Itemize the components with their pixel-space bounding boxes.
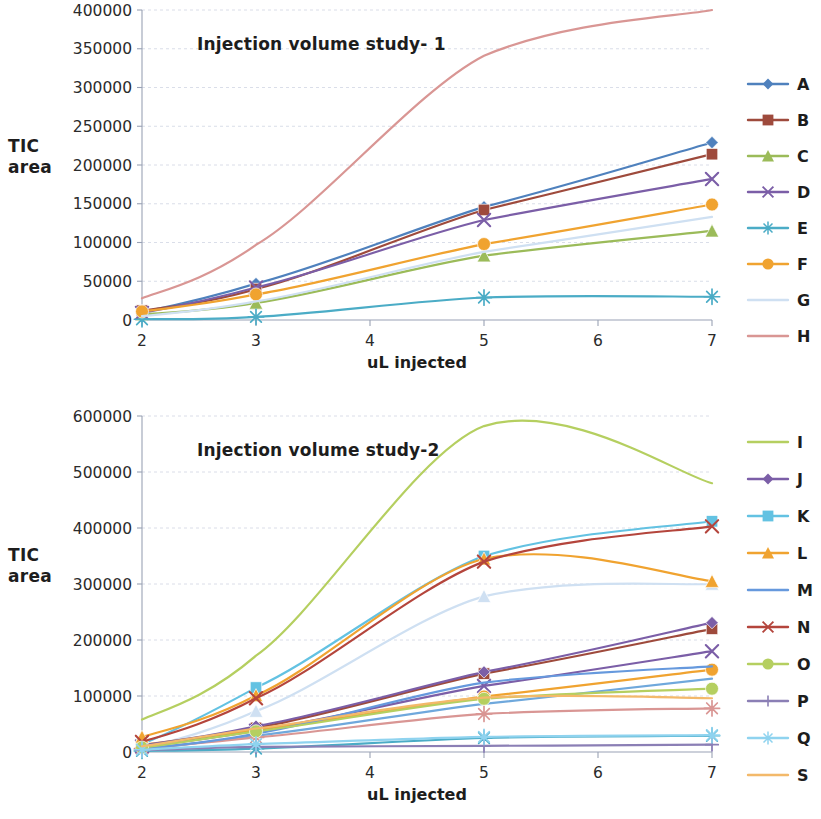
- chart-2-y-axis-title: TIC area: [8, 545, 52, 586]
- legend-label-O: O: [797, 655, 811, 674]
- series-line: [142, 623, 712, 746]
- y-tick-label: 0: [122, 312, 132, 330]
- x-tick-label: 6: [593, 332, 603, 350]
- data-point-marker: [249, 704, 263, 717]
- legend-item-K[interactable]: K: [748, 507, 810, 526]
- x-tick-label: 3: [251, 764, 261, 782]
- y-tick-label: 250000: [73, 118, 132, 136]
- legend-item-H[interactable]: H: [748, 327, 810, 346]
- series-F: [136, 198, 719, 318]
- series-line: [142, 143, 712, 313]
- data-point-marker: [250, 288, 263, 301]
- series-I: [142, 421, 712, 720]
- legend-item-O[interactable]: O: [748, 655, 811, 674]
- legend-item-I[interactable]: I: [748, 433, 803, 452]
- legend-item-A[interactable]: A: [748, 75, 810, 94]
- legend-marker: [763, 115, 774, 126]
- x-tick-label: 5: [479, 332, 489, 350]
- x-tick-label: 7: [707, 764, 717, 782]
- series-line: [142, 421, 712, 720]
- x-axis-title: uL injected: [367, 785, 467, 804]
- data-point-marker: [478, 204, 490, 216]
- x-axis-title: uL injected: [367, 353, 467, 372]
- legend-item-D[interactable]: D: [748, 183, 810, 202]
- x-tick-label: 4: [365, 764, 375, 782]
- legend-marker: [763, 79, 774, 90]
- series-unlabeled-light-blue: [135, 577, 719, 755]
- legend-marker: [762, 222, 775, 235]
- legend-label-S: S: [797, 766, 809, 785]
- legend-label-H: H: [797, 327, 810, 346]
- series-A: [136, 136, 718, 318]
- legend-item-L[interactable]: L: [748, 544, 807, 563]
- legend-label-K: K: [797, 507, 810, 526]
- legend-item-F[interactable]: F: [748, 255, 808, 274]
- data-point-marker: [704, 289, 719, 304]
- chart-1-container: TIC area 0500001000001500002000002500003…: [0, 0, 821, 400]
- y-tick-label: 350000: [73, 40, 132, 58]
- x-tick-label: 2: [137, 332, 147, 350]
- y-tick-label: 0: [122, 744, 132, 762]
- x-tick-label: 5: [479, 764, 489, 782]
- data-point-marker: [706, 136, 718, 148]
- data-point-marker: [478, 238, 491, 251]
- data-point-marker: [706, 682, 719, 695]
- legend-marker: [762, 658, 773, 669]
- series-B: [136, 148, 718, 316]
- legend-label-I: I: [797, 433, 803, 452]
- legend-item-Q[interactable]: Q: [748, 729, 811, 748]
- legend-label-J: J: [796, 470, 803, 489]
- chart-1-y-axis-title: TIC area: [8, 136, 52, 177]
- data-point-marker: [476, 706, 491, 721]
- y-tick-label: 300000: [73, 79, 132, 97]
- legend-label-N: N: [797, 618, 810, 637]
- data-point-marker: [248, 309, 263, 324]
- legend-item-C[interactable]: C: [748, 147, 809, 166]
- legend-marker: [762, 258, 773, 269]
- legend-label-E: E: [797, 219, 808, 238]
- legend-marker: [762, 732, 775, 745]
- x-tick-label: 7: [707, 332, 717, 350]
- data-point-marker: [706, 148, 718, 160]
- legend-label-A: A: [797, 75, 810, 94]
- legend-marker: [763, 511, 774, 522]
- data-point-marker: [706, 663, 719, 676]
- y-tick-label: 600000: [73, 408, 132, 426]
- legend-item-B[interactable]: B: [748, 111, 809, 130]
- series-line: [142, 708, 712, 748]
- legend-label-D: D: [797, 183, 810, 202]
- legend-label-C: C: [797, 147, 809, 166]
- x-tick-label: 4: [365, 332, 375, 350]
- y-tick-label: 200000: [73, 157, 132, 175]
- chart-1-plot: 0500001000001500002000002500003000003500…: [0, 0, 821, 400]
- y-tick-label: 100000: [73, 688, 132, 706]
- y-tick-label: 500000: [73, 464, 132, 482]
- legend-item-S[interactable]: S: [748, 766, 809, 785]
- legend-item-M[interactable]: M: [748, 581, 813, 600]
- data-point-marker: [704, 728, 719, 743]
- y-tick-label: 400000: [73, 520, 132, 538]
- legend-label-F: F: [797, 255, 808, 274]
- legend-label-Q: Q: [797, 729, 811, 748]
- data-point-marker: [476, 290, 491, 305]
- legend-label-B: B: [797, 111, 809, 130]
- legend-item-P[interactable]: P: [748, 692, 809, 711]
- legend-label-M: M: [797, 581, 813, 600]
- data-point-marker: [134, 742, 149, 757]
- y-tick-label: 100000: [73, 234, 132, 252]
- data-point-marker: [706, 198, 719, 211]
- x-tick-label: 6: [593, 764, 603, 782]
- chart-2-container: TIC area 0100000200000300000400000500000…: [0, 400, 821, 819]
- data-point-marker: [704, 701, 719, 716]
- y-tick-label: 200000: [73, 632, 132, 650]
- x-tick-label: 2: [137, 764, 147, 782]
- legend-item-J[interactable]: J: [748, 470, 803, 489]
- y-tick-label: 150000: [73, 195, 132, 213]
- legend-item-N[interactable]: N: [748, 618, 810, 637]
- legend-item-E[interactable]: E: [748, 219, 808, 238]
- legend-label-G: G: [797, 291, 810, 310]
- chart-title: Injection volume study- 1: [197, 34, 446, 54]
- legend-item-G[interactable]: G: [748, 291, 810, 310]
- legend-marker: [763, 696, 774, 707]
- chart-page: TIC area 0500001000001500002000002500003…: [0, 0, 821, 819]
